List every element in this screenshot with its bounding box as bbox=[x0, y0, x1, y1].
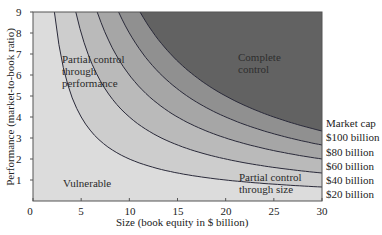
x-axis-label: Size (book equity in $ billion) bbox=[116, 216, 248, 228]
y-tick-3: 3 bbox=[16, 132, 22, 144]
x-tick-0: 0 bbox=[27, 205, 33, 217]
region-label-partial-size-2: through size bbox=[239, 183, 293, 195]
legend-item-100: $100 billion bbox=[326, 131, 379, 143]
region-label-partial-performance-3: performance bbox=[62, 77, 118, 89]
region-label-complete-control-1: Complete bbox=[238, 51, 281, 63]
region-label-partial-performance-1: Partial control bbox=[62, 53, 125, 65]
y-tick-4: 4 bbox=[16, 111, 22, 123]
y-tick-8: 8 bbox=[16, 27, 22, 39]
y-tick-6: 6 bbox=[16, 69, 22, 81]
y-tick-7: 7 bbox=[16, 48, 22, 60]
legend-item-60: $60 billion bbox=[326, 160, 374, 172]
region-label-partial-performance-2: through bbox=[62, 65, 96, 77]
x-tick-5: 5 bbox=[78, 205, 84, 217]
y-tick-1: 1 bbox=[16, 174, 22, 186]
region-label-complete-control-2: control bbox=[238, 63, 269, 75]
y-tick-9: 9 bbox=[16, 6, 22, 18]
x-tick-30: 30 bbox=[317, 205, 328, 217]
region-label-partial-size-1: Partial control bbox=[239, 171, 302, 183]
y-tick-2: 2 bbox=[16, 153, 22, 165]
legend-item-40: $40 billion bbox=[326, 174, 374, 186]
legend-item-80: $80 billion bbox=[326, 146, 374, 158]
chart-canvas bbox=[0, 0, 382, 235]
x-tick-25: 25 bbox=[269, 205, 280, 217]
legend-item-20: $20 billion bbox=[326, 188, 374, 200]
y-axis-label: Performance (market-to-book ratio) bbox=[4, 28, 16, 186]
y-tick-5: 5 bbox=[16, 90, 22, 102]
legend-title: Market cap bbox=[326, 117, 376, 129]
region-label-vulnerable: Vulnerable bbox=[63, 177, 111, 189]
